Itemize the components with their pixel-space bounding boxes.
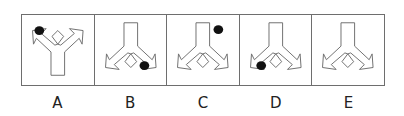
dot-icon — [256, 61, 266, 70]
y-shape-icon — [167, 15, 239, 85]
option-label-b: B — [94, 94, 167, 112]
option-label-a: A — [21, 94, 94, 112]
option-panel-a[interactable] — [22, 15, 95, 85]
option-panel-e[interactable] — [312, 15, 384, 85]
dot-icon — [34, 26, 44, 35]
option-strip — [21, 14, 385, 86]
y-shape-icon — [312, 15, 384, 85]
dot-icon — [214, 25, 224, 34]
option-panel-d[interactable] — [240, 15, 313, 85]
option-label-e: E — [312, 94, 385, 112]
dot-icon — [139, 61, 149, 70]
option-label-c: C — [167, 94, 240, 112]
option-label-d: D — [239, 94, 312, 112]
y-shape-icon — [22, 15, 94, 85]
option-panel-b[interactable] — [95, 15, 168, 85]
option-panel-c[interactable] — [167, 15, 240, 85]
y-shape-icon — [95, 15, 167, 85]
option-labels: A B C D E — [21, 94, 385, 112]
y-shape-icon — [240, 15, 312, 85]
